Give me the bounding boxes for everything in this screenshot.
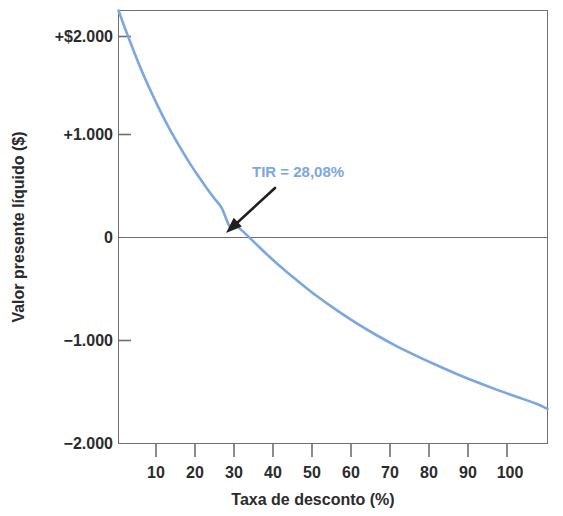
- y-axis-title: Valor presente líquido ($): [10, 131, 27, 322]
- plot-frame: [119, 11, 548, 444]
- x-axis-tick-labels: 10 20 30 40 50 60 70 80 90 100: [147, 464, 523, 481]
- x-tick-label-70: 70: [381, 464, 399, 481]
- y-tick-label-2000: +$2.000: [55, 28, 113, 45]
- x-tick-label-90: 90: [459, 464, 477, 481]
- y-tick-label-0: 0: [104, 229, 113, 246]
- x-tick-label-100: 100: [497, 464, 524, 481]
- y-tick-label-neg1000: −1.000: [64, 332, 113, 349]
- x-tick-label-30: 30: [225, 464, 243, 481]
- x-tick-label-60: 60: [342, 464, 360, 481]
- chart-canvas: +$2.000 +1.000 0 −1.000 −2.000 10 20 30 …: [0, 0, 563, 516]
- x-axis-ticks: [156, 444, 507, 458]
- x-tick-label-40: 40: [264, 464, 282, 481]
- y-tick-label-1000: +1.000: [64, 126, 113, 143]
- x-tick-label-10: 10: [147, 464, 165, 481]
- x-tick-label-80: 80: [420, 464, 438, 481]
- irr-annotation-label: TIR = 28,08%: [252, 163, 344, 180]
- y-tick-label-neg2000: −2.000: [64, 435, 113, 452]
- x-tick-label-20: 20: [186, 464, 204, 481]
- x-axis-title: Taxa de desconto (%): [231, 491, 394, 508]
- y-axis-tick-labels: +$2.000 +1.000 0 −1.000 −2.000: [55, 28, 113, 452]
- npv-chart: +$2.000 +1.000 0 −1.000 −2.000 10 20 30 …: [0, 0, 563, 516]
- x-tick-label-50: 50: [303, 464, 321, 481]
